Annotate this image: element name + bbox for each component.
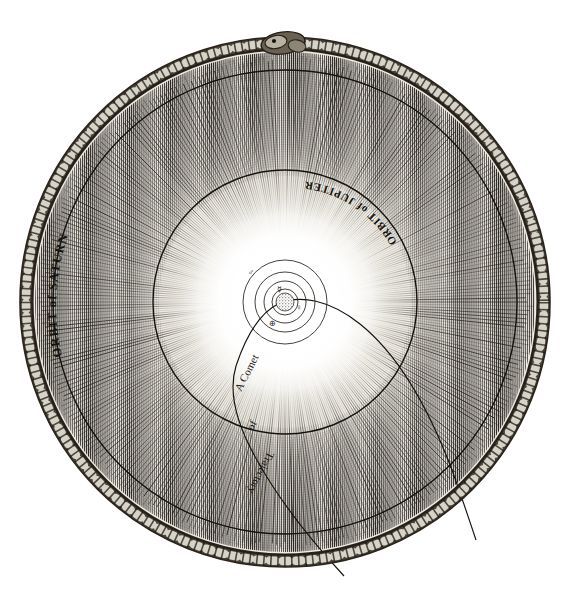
planet-marker-earth: ⊕ [269,319,276,328]
engraving-plate: ♂ ☿ ♀ ⊕ ORBI [0,0,571,599]
solar-system-engraving: ♂ ☿ ♀ ⊕ ORBI [0,0,571,599]
planet-marker-venus: ♀ [296,303,302,312]
planet-marker-mars: ♂ [248,268,254,277]
planet-marker-mercury: ☿ [277,285,282,294]
sun-disc [276,293,294,311]
